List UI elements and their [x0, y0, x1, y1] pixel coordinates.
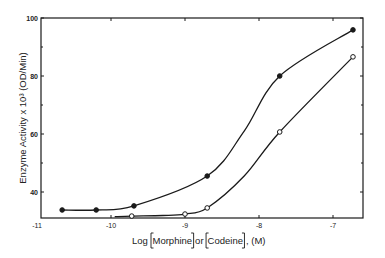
- axes-box: [41, 18, 363, 218]
- filled-data-point: [60, 208, 65, 213]
- open-data-point: [129, 214, 134, 219]
- x-tick-label: -10: [106, 222, 116, 229]
- data-curves: [62, 30, 353, 217]
- data-points: [60, 28, 355, 219]
- dose-response-chart: -11-10-9-8-7 406080100 Enzyme Activity x…: [0, 0, 385, 258]
- filled-data-point: [132, 204, 137, 209]
- open-data-point: [183, 212, 188, 217]
- filled-data-point: [205, 174, 210, 179]
- open-data-point: [205, 206, 210, 211]
- x-tick-label: -7: [330, 222, 336, 229]
- x-axis-label: Log MorphineorCodeine, (M): [132, 233, 265, 248]
- filled-data-point: [351, 28, 356, 33]
- open-data-point: [277, 130, 282, 135]
- y-tick-label: 100: [26, 15, 38, 22]
- y-tick-label: 60: [30, 131, 38, 138]
- x-axis-ticks: -11-10-9-8-7: [32, 18, 336, 229]
- morphine-curve: [62, 30, 353, 210]
- y-tick-label: 40: [30, 189, 38, 196]
- x-axis-label-text: Log MorphineorCodeine, (M): [132, 235, 265, 246]
- filled-data-point: [277, 74, 282, 79]
- y-axis-label: Enzyme Activity x 10³ (OD/Min): [17, 52, 28, 183]
- plot-frame: [41, 18, 363, 218]
- open-data-point: [351, 55, 356, 60]
- y-axis-ticks: 406080100: [26, 15, 363, 196]
- x-tick-label: -11: [32, 222, 42, 229]
- x-tick-label: -8: [256, 222, 262, 229]
- codeine-curve: [115, 57, 353, 217]
- y-tick-label: 80: [30, 73, 38, 80]
- filled-data-point: [94, 208, 99, 213]
- x-tick-label: -9: [182, 222, 188, 229]
